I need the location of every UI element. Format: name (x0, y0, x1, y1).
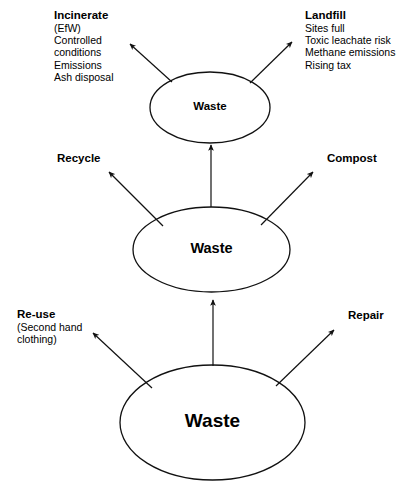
branch-heading-reuse: Re-use (17, 308, 112, 321)
branch-line-incinerate-2: Controlled (54, 34, 149, 46)
branch-heading-landfill: Landfill (305, 9, 406, 22)
node-label-waste-top: Waste (150, 100, 270, 112)
arrow-to-recycle (109, 172, 163, 226)
branch-line-landfill-2: Toxic leachate risk (305, 34, 406, 46)
branch-line-incinerate-1: (EfW) (54, 22, 149, 34)
branch-line-incinerate-4: Emissions (54, 59, 149, 71)
arrow-to-compost (261, 172, 313, 225)
branch-label-recycle: Recycle (57, 152, 100, 164)
branch-line-landfill-3: Methane emissions (305, 46, 406, 58)
branch-label-repair: Repair (348, 309, 384, 321)
node-label-waste-middle: Waste (133, 240, 290, 256)
arrow-to-repair (276, 330, 334, 386)
branch-label-compost: Compost (327, 152, 377, 164)
branch-line-landfill-4: Rising tax (305, 59, 406, 71)
branch-heading-incinerate: Incinerate (54, 9, 149, 22)
branch-label-incinerate: Incinerate (EfW) Controlled conditions E… (54, 9, 149, 83)
arrow-to-landfill (250, 42, 292, 83)
branch-line-reuse-2: clothing) (17, 333, 112, 345)
branch-label-landfill: Landfill Sites full Toxic leachate risk … (305, 9, 406, 71)
branch-line-incinerate-5: Ash disposal (54, 71, 149, 83)
branch-line-incinerate-3: conditions (54, 46, 149, 58)
waste-hierarchy-diagram: Waste Waste Waste Incinerate (EfW) Contr… (0, 0, 406, 497)
branch-line-reuse-1: (Second hand (17, 321, 112, 333)
node-label-waste-bottom: Waste (120, 410, 305, 432)
branch-label-reuse: Re-use (Second hand clothing) (17, 308, 112, 345)
branch-line-landfill-1: Sites full (305, 22, 406, 34)
